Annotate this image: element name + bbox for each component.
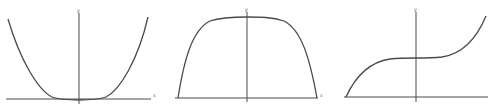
- panel-3-y-label: y: [413, 6, 417, 13]
- panel-1-curve: [8, 17, 148, 100]
- panel-2-x-label: x: [320, 92, 323, 98]
- three-function-graphs: x y x y y: [0, 0, 489, 108]
- panel-2-y-label: y: [244, 6, 248, 13]
- panel-2-flat-top: x y: [175, 6, 323, 102]
- panel-3-cubic: y: [344, 6, 488, 102]
- panel-1-y-label: y: [76, 7, 80, 14]
- panel-1-even-power: x y: [6, 7, 156, 104]
- panel-1-x-label: x: [153, 92, 156, 98]
